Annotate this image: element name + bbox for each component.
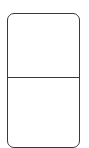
domino-tile [7,13,80,138]
domino-bottom-half-blank [8,79,79,138]
domino-divider [8,77,79,78]
domino-top-half [8,14,79,77]
